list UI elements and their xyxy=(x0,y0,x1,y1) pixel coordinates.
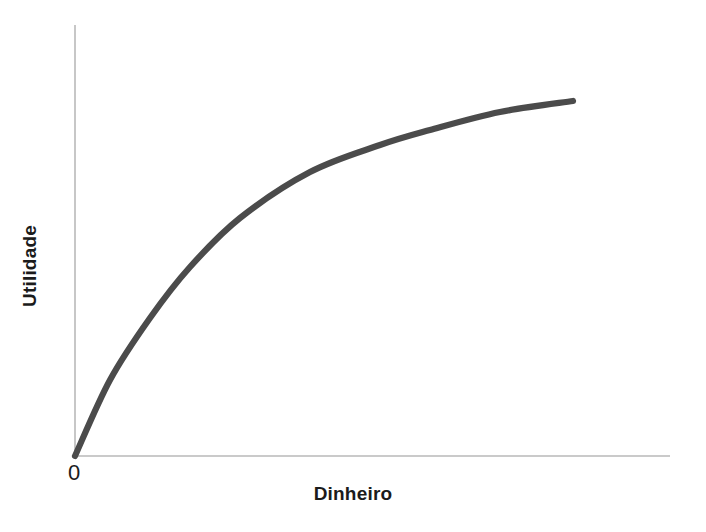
utility-curve-figure: Utilidade Dinheiro 0 xyxy=(0,0,706,532)
utility-curve-line xyxy=(75,101,573,456)
x-axis-title-text: Dinheiro xyxy=(314,483,393,504)
chart-canvas xyxy=(0,0,706,532)
series-group xyxy=(75,101,573,456)
x-axis-title: Dinheiro xyxy=(0,483,706,505)
y-axis-title: Utilidade xyxy=(0,0,60,532)
origin-tick-label: 0 xyxy=(68,462,80,484)
chart-page: Utilidade Dinheiro 0 xyxy=(0,0,706,532)
y-axis-title-text: Utilidade xyxy=(19,225,41,307)
axes-group xyxy=(75,25,670,456)
